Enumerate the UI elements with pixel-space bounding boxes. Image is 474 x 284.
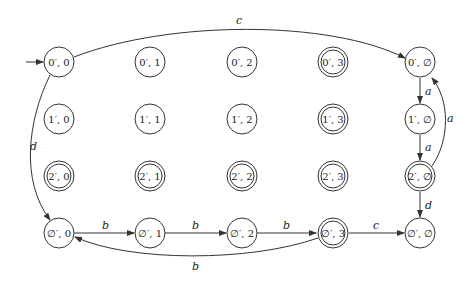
svg-text:2′, 1: 2′, 1 — [139, 171, 160, 182]
state-1-2: 1′, 2 — [227, 104, 257, 134]
svg-text:2′, 2: 2′, 2 — [231, 171, 252, 182]
svg-text:0′, 1: 0′, 1 — [139, 57, 160, 68]
edge-d-2e-ee: d — [420, 192, 432, 217]
state-2-2: 2′, 2 — [227, 161, 257, 191]
state-empty-0: ∅′, 0 — [44, 218, 74, 248]
svg-text:1′, 2: 1′, 2 — [231, 114, 252, 125]
edge-b-e0-e1: b — [74, 219, 134, 233]
svg-text:b: b — [192, 260, 199, 273]
state-1-3: 1′, 3 — [318, 104, 348, 134]
svg-text:0′, ∅: 0′, ∅ — [408, 57, 432, 68]
state-empty-2: ∅′, 2 — [227, 218, 257, 248]
state-0-1: 0′, 1 — [135, 47, 165, 77]
svg-text:0′, 2: 0′, 2 — [231, 57, 252, 68]
svg-text:1′, 0: 1′, 0 — [48, 114, 69, 125]
svg-text:1′, 3: 1′, 3 — [322, 114, 343, 125]
state-1-0: 1′, 0 — [44, 104, 74, 134]
state-0-2: 0′, 2 — [227, 47, 257, 77]
state-1-empty: 1′, ∅ — [405, 104, 435, 134]
svg-text:∅′, ∅: ∅′, ∅ — [407, 228, 434, 239]
svg-text:∅′, 3: ∅′, 3 — [321, 228, 345, 239]
svg-text:a: a — [425, 141, 432, 154]
state-1-1: 1′, 1 — [135, 104, 165, 134]
state-0-3: 0′, 3 — [318, 47, 348, 77]
svg-text:a: a — [447, 112, 454, 125]
svg-text:2′, ∅: 2′, ∅ — [408, 171, 432, 182]
edge-d-left: d — [30, 75, 50, 220]
svg-text:b: b — [102, 219, 109, 232]
state-2-1: 2′, 1 — [135, 161, 165, 191]
svg-text:1′, 1: 1′, 1 — [139, 114, 160, 125]
edge-b-e3-e0: b — [75, 237, 318, 273]
svg-text:c: c — [236, 14, 242, 27]
state-2-empty: 2′, ∅ — [405, 161, 435, 191]
svg-text:d: d — [30, 140, 37, 153]
state-empty-1: ∅′, 1 — [135, 218, 165, 248]
svg-text:d: d — [425, 199, 432, 212]
edge-a-0e-1e: a — [420, 78, 432, 103]
svg-text:a: a — [425, 85, 432, 98]
svg-text:∅′, 1: ∅′, 1 — [138, 228, 162, 239]
svg-text:b: b — [192, 219, 199, 232]
edge-c-e3-ee: c — [349, 219, 404, 233]
state-2-3: 2′, 3 — [318, 161, 348, 191]
automaton-diagram: c d a a a d b b b b c 0′, 0 — [0, 0, 474, 284]
state-empty-3: ∅′, 3 — [318, 218, 348, 248]
edge-a-2e-0e: a — [432, 78, 454, 166]
edge-b-e1-e2: b — [165, 219, 226, 233]
edge-b-e2-e3: b — [257, 219, 316, 233]
svg-text:c: c — [373, 219, 379, 232]
state-2-0: 2′, 0 — [44, 161, 74, 191]
svg-text:0′, 0: 0′, 0 — [48, 57, 69, 68]
edge-a-1e-2e: a — [420, 135, 432, 160]
svg-text:∅′, 2: ∅′, 2 — [230, 228, 254, 239]
state-empty-empty: ∅′, ∅ — [405, 218, 435, 248]
state-0-empty: 0′, ∅ — [405, 47, 435, 77]
svg-text:2′, 3: 2′, 3 — [322, 171, 343, 182]
svg-text:∅′, 0: ∅′, 0 — [47, 228, 71, 239]
svg-text:0′, 3: 0′, 3 — [322, 57, 343, 68]
state-0-0: 0′, 0 — [44, 47, 74, 77]
svg-text:b: b — [283, 219, 290, 232]
svg-text:1′, ∅: 1′, ∅ — [408, 114, 432, 125]
svg-text:2′, 0: 2′, 0 — [48, 171, 69, 182]
